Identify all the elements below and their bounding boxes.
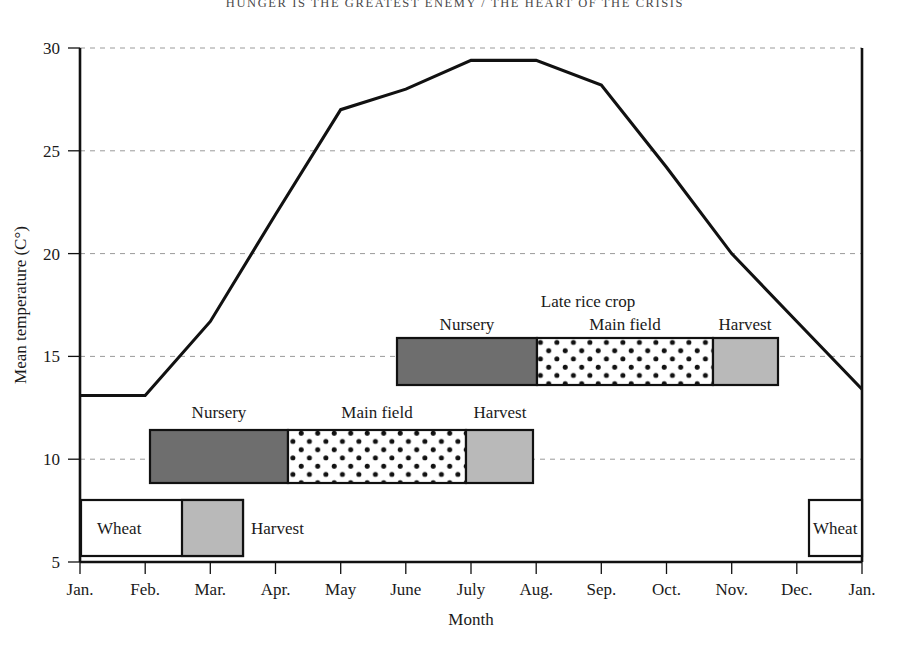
y-tick-label-15: 15 [43,347,60,366]
late-rice-harvest-box [713,338,778,385]
wheat-left-harvest-box [182,500,243,556]
axes [80,48,862,562]
late-rice-nursery-label: Nursery [440,315,495,334]
y-tick-label-25: 25 [43,142,60,161]
x-tick-label-6: July [457,580,486,599]
y-axis-tick-labels: 30 25 20 15 10 5 [43,39,60,572]
late-rice-main-field-box [537,338,713,385]
x-tick-label-0: Jan. [67,580,94,599]
x-axis-tick-labels: Jan. Feb. Mar. Apr. May June July Aug. S… [67,580,876,599]
x-tick-label-12: Jan. [849,580,876,599]
y-tick-label-30: 30 [43,39,60,58]
late-rice-main-field-label: Main field [589,315,661,334]
early-rice-nursery-box [150,430,288,483]
y-axis-ticks [68,48,80,562]
wheat-left-group: Wheat Harvest [81,500,304,556]
y-tick-label-10: 10 [43,450,60,469]
early-rice-main-field-box [288,430,466,483]
late-rice-crop-title: Late rice crop [541,292,635,311]
early-rice-harvest-label: Harvest [474,403,527,422]
early-rice-harvest-box [466,430,533,483]
x-tick-label-2: Mar. [194,580,226,599]
late-rice-harvest-label: Harvest [719,315,772,334]
x-axis-ticks [80,562,862,574]
x-tick-label-3: Apr. [261,580,291,599]
early-rice-main-field-label: Main field [341,403,413,422]
x-tick-label-5: June [390,580,421,599]
x-tick-label-10: Nov. [715,580,747,599]
x-axis-title: Month [448,610,494,629]
early-rice-nursery-label: Nursery [192,403,247,422]
x-tick-label-11: Dec. [781,580,813,599]
late-rice-crop-group: Late rice crop Nursery Main field Harves… [397,292,778,385]
wheat-left-label: Wheat [97,519,142,538]
x-tick-label-8: Sep. [586,580,616,599]
x-tick-label-7: Aug. [519,580,553,599]
late-rice-nursery-box [397,338,537,385]
y-tick-label-20: 20 [43,245,60,264]
y-axis-title: Mean temperature (C°) [11,226,30,384]
y-tick-label-5: 5 [52,553,61,572]
gridlines [80,48,862,459]
wheat-left-harvest-label: Harvest [251,519,304,538]
figure-page: HUNGER IS THE GREATEST ENEMY / THE HEART… [0,0,910,647]
temperature-cropping-calendar-chart: 30 25 20 15 10 5 Mean temperature (C°) J… [0,0,910,647]
wheat-right-group: Wheat [809,500,862,556]
x-tick-label-9: Oct. [652,580,681,599]
x-tick-label-4: May [325,580,357,599]
x-tick-label-1: Feb. [130,580,160,599]
early-rice-crop-group: Nursery Main field Harvest [150,403,533,483]
wheat-right-label: Wheat [813,519,858,538]
